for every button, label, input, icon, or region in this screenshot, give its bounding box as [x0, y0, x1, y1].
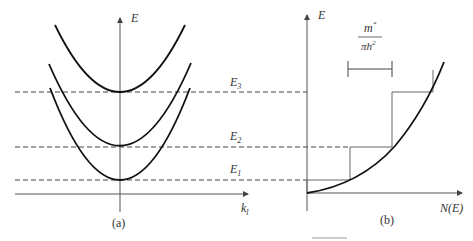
panel-a: E kl (a) E3 E2 E1 — [15, 11, 249, 230]
step-annotation-denominator: πh2 — [361, 39, 376, 52]
level-label-e1: E1 — [229, 162, 241, 178]
level-label-e2: E2 — [229, 129, 241, 145]
dos-staircase — [307, 70, 433, 193]
panel-b-x-label: N(E) — [439, 201, 463, 215]
step-annotation-numerator: m* — [364, 20, 377, 35]
panel-a-y-label: E — [130, 11, 139, 25]
panel-a-caption: (a) — [112, 216, 125, 230]
level-label-e3: E3 — [229, 75, 241, 91]
panel-a-x-label: kl — [241, 201, 249, 217]
panel-b: m* πh2 E N(E) (b) — [307, 8, 463, 227]
panel-b-caption: (b) — [380, 213, 394, 227]
density-of-states-diagram: E kl (a) E3 E2 E1 m* πh2 E N(E) (b) — [0, 0, 473, 241]
panel-b-y-label: E — [317, 8, 326, 22]
bulk-dos-curve — [307, 62, 444, 193]
